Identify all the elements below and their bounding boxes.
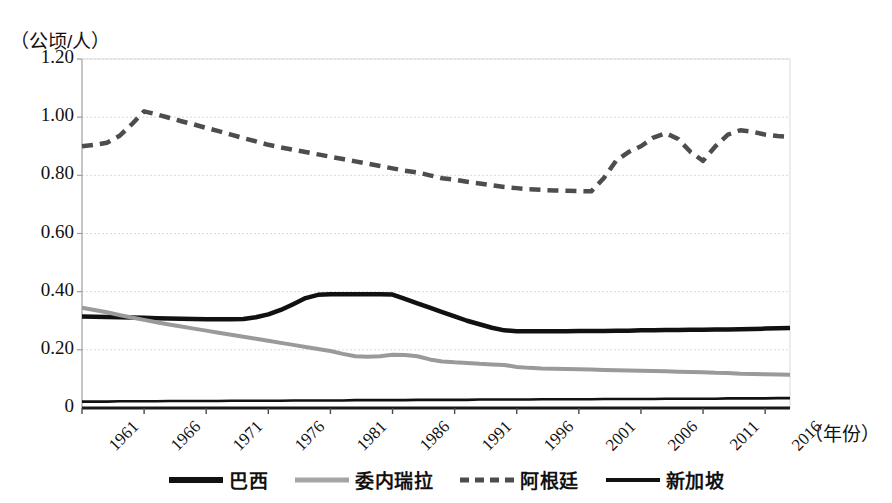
legend-swatch-line — [294, 473, 350, 487]
legend-item-0[interactable]: 巴西 — [168, 466, 268, 493]
legend-swatch-line — [605, 473, 661, 487]
legend-swatch-line — [168, 473, 224, 487]
series-line-3 — [82, 398, 790, 401]
legend-label: 委内瑞拉 — [355, 466, 433, 493]
plot-area — [0, 0, 892, 503]
series-line-2 — [82, 111, 790, 191]
legend-label: 新加坡 — [666, 466, 725, 493]
legend-item-2[interactable]: 阿根廷 — [459, 466, 579, 493]
axis-ticks — [77, 59, 765, 414]
line-chart: （公顷/人） 1.201.000.800.600.400.200 1961196… — [0, 0, 892, 503]
legend-label: 巴西 — [229, 466, 268, 493]
legend-swatch-line — [459, 473, 515, 487]
legend-item-1[interactable]: 委内瑞拉 — [294, 466, 433, 493]
x-axis-title: （年份） — [804, 419, 880, 446]
legend-label: 阿根廷 — [520, 466, 579, 493]
legend-item-3[interactable]: 新加坡 — [605, 466, 725, 493]
gridlines — [82, 59, 790, 350]
data-series-layer — [82, 111, 790, 401]
chart-legend: 巴西委内瑞拉阿根廷新加坡 — [0, 466, 892, 493]
